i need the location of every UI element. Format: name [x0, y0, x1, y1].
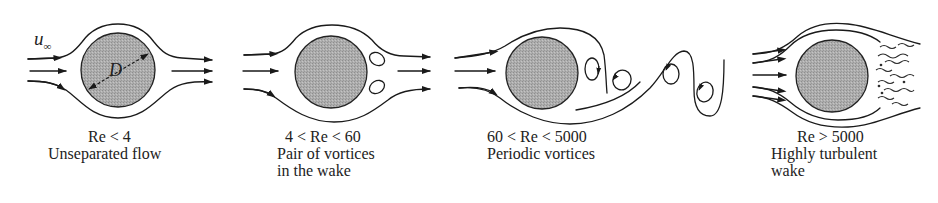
description-line: wake — [771, 162, 877, 179]
streamline — [459, 51, 724, 124]
vortex — [695, 80, 716, 103]
vortex-lower — [367, 78, 387, 96]
regime-label: 4 < Re < 60 — [277, 128, 375, 145]
arrowhead-icon — [753, 87, 782, 91]
infinity-subscript: ∞ — [44, 40, 52, 52]
streamline — [576, 82, 640, 110]
freestream-velocity-label: u∞ — [34, 28, 51, 52]
caption-periodic: 60 < Re < 5000 Periodic vortices — [487, 128, 595, 162]
velocity-symbol: u — [34, 28, 44, 49]
caption-vortex-pair: 4 < Re < 60 Pair of vortices in the wake — [277, 128, 375, 179]
panel-vortex-pair-drawing — [243, 25, 430, 122]
flow-regimes-figure: u∞ D Re < 4 Unseparated flow 4 < Re < 60… — [0, 0, 938, 203]
caption-unseparated: Re < 4 Unseparated flow — [88, 128, 161, 162]
cylinder — [796, 40, 868, 112]
description-line: in the wake — [277, 162, 375, 179]
arrowhead-icon — [244, 89, 272, 95]
description-line: Periodic vortices — [487, 145, 595, 162]
arrowhead-icon — [28, 58, 58, 59]
regime-label: 60 < Re < 5000 — [487, 128, 595, 145]
arrowhead-icon — [28, 81, 62, 88]
vortex — [610, 68, 634, 93]
arrowhead-icon — [459, 87, 494, 93]
vortex-upper — [367, 50, 387, 68]
arrowhead-icon — [244, 54, 274, 55]
arrowhead-icon — [753, 59, 782, 63]
vortex — [585, 58, 599, 80]
cylinder — [295, 36, 367, 108]
panel-turbulent-drawing — [753, 23, 920, 127]
arrowhead-icon — [753, 50, 782, 54]
regime-label: Re > 5000 — [771, 128, 877, 145]
turbulent-wake — [876, 44, 914, 106]
arrowhead-icon — [455, 52, 494, 58]
description-line: Highly turbulent — [771, 145, 877, 162]
arrowhead-icon — [753, 96, 782, 100]
panel-periodic-drawing — [455, 28, 724, 124]
vortex — [663, 64, 679, 84]
description-line: Pair of vortices — [277, 145, 375, 162]
regime-label: Re < 4 — [88, 128, 161, 145]
diameter-label: D — [109, 60, 122, 81]
description-line: Unseparated flow — [48, 145, 161, 162]
cylinder — [506, 37, 578, 109]
caption-turbulent: Re > 5000 Highly turbulent wake — [771, 128, 877, 179]
